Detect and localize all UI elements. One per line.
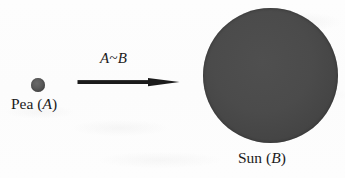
sun-label-symbol: B — [271, 149, 280, 166]
pea-label-name: Pea — [11, 95, 33, 112]
sun-label-name: Sun — [238, 149, 262, 166]
relation-arrow-icon — [76, 72, 184, 92]
relation-label-text: A~B — [100, 50, 127, 66]
pea-label: Pea (A) — [11, 96, 57, 112]
sun-label-close-paren: ) — [281, 149, 286, 166]
figure-canvas: A~B Pea (A) Sun (B) — [0, 0, 345, 178]
pea-circle — [31, 78, 45, 92]
relation-label: A~B — [100, 51, 127, 66]
sun-circle — [203, 8, 338, 143]
sun-label: Sun (B) — [238, 150, 286, 166]
pea-label-symbol: A — [42, 95, 51, 112]
pea-label-close-paren: ) — [52, 95, 57, 112]
